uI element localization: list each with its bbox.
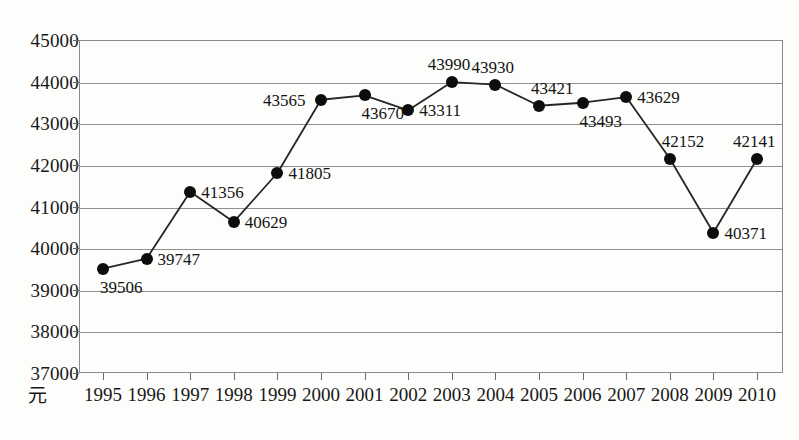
data-point-label: 43565 <box>263 92 306 109</box>
y-axis-tick-mark <box>73 373 79 374</box>
data-point-marker[interactable] <box>489 79 501 91</box>
y-axis-tick-mark <box>73 290 79 291</box>
y-axis-tick-label: 42000 <box>7 156 79 175</box>
data-point-label: 43990 <box>428 56 471 73</box>
data-point-marker[interactable] <box>707 227 719 239</box>
x-axis-tick-mark <box>757 373 758 380</box>
data-point-label: 43930 <box>471 59 514 76</box>
gridline <box>80 332 782 333</box>
data-point-marker[interactable] <box>184 186 196 198</box>
x-axis-tick-mark <box>452 373 453 380</box>
y-axis-tick-mark <box>73 248 79 249</box>
gridline <box>80 166 782 167</box>
y-axis-tick-mark <box>73 123 79 124</box>
x-axis-tick-mark <box>234 373 235 380</box>
y-axis-tick-mark <box>73 40 79 41</box>
y-axis: 4500044000430004200041000400003900038000… <box>0 0 79 440</box>
y-axis-tick-label: 44000 <box>7 73 79 92</box>
x-axis-tick-mark <box>583 373 584 380</box>
data-point-label: 42152 <box>662 133 705 150</box>
y-axis-tick-mark <box>73 82 79 83</box>
data-point-label: 42141 <box>733 133 776 150</box>
data-point-marker[interactable] <box>533 100 545 112</box>
x-axis-tick-label: 2010 <box>727 385 787 405</box>
data-point-marker[interactable] <box>97 263 109 275</box>
data-point-label: 41805 <box>288 165 331 182</box>
data-point-label: 41356 <box>201 184 244 201</box>
y-axis-tick-label: 40000 <box>7 239 79 258</box>
x-axis-tick-mark <box>539 373 540 380</box>
x-axis-tick-mark <box>190 373 191 380</box>
y-axis-tick-mark <box>73 165 79 166</box>
data-point-marker[interactable] <box>446 76 458 88</box>
data-point-label: 43670 <box>362 105 405 122</box>
x-axis-tick-mark <box>670 373 671 380</box>
gridline <box>80 83 782 84</box>
data-point-marker[interactable] <box>228 216 240 228</box>
y-axis-tick-label: 41000 <box>7 198 79 217</box>
x-axis-tick-mark <box>147 373 148 380</box>
data-point-marker[interactable] <box>359 89 371 101</box>
x-axis-tick-mark <box>103 373 104 380</box>
data-point-label: 43629 <box>637 89 680 106</box>
data-point-label: 40371 <box>724 225 767 242</box>
data-point-marker[interactable] <box>751 153 763 165</box>
y-axis-tick-mark <box>73 331 79 332</box>
y-axis-tick-mark <box>73 207 79 208</box>
y-axis-unit-label: 元 <box>0 386 74 405</box>
data-point-marker[interactable] <box>577 97 589 109</box>
x-axis-tick-mark <box>626 373 627 380</box>
y-axis-tick-label: 38000 <box>7 322 79 341</box>
y-axis-tick-label: 39000 <box>7 281 79 300</box>
x-axis-tick-mark <box>713 373 714 380</box>
gridline <box>80 291 782 292</box>
data-point-label: 43421 <box>531 80 574 97</box>
line-chart: 4500044000430004200041000400003900038000… <box>0 0 799 440</box>
gridline <box>80 208 782 209</box>
y-axis-tick-label: 45000 <box>7 31 79 50</box>
data-point-marker[interactable] <box>141 253 153 265</box>
x-axis-tick-mark <box>321 373 322 380</box>
data-point-label: 43493 <box>580 113 623 130</box>
x-axis-tick-mark <box>408 373 409 380</box>
x-axis-tick-mark <box>365 373 366 380</box>
data-point-marker[interactable] <box>664 153 676 165</box>
y-axis-tick-label: 37000 <box>7 364 79 383</box>
data-point-label: 43311 <box>419 102 461 119</box>
x-axis-tick-mark <box>277 373 278 380</box>
data-point-label: 40629 <box>245 214 288 231</box>
x-axis-tick-mark <box>495 373 496 380</box>
data-point-label: 39747 <box>158 251 201 268</box>
gridline <box>80 124 782 125</box>
data-point-label: 39506 <box>100 279 143 296</box>
y-axis-tick-label: 43000 <box>7 114 79 133</box>
data-point-marker[interactable] <box>315 94 327 106</box>
